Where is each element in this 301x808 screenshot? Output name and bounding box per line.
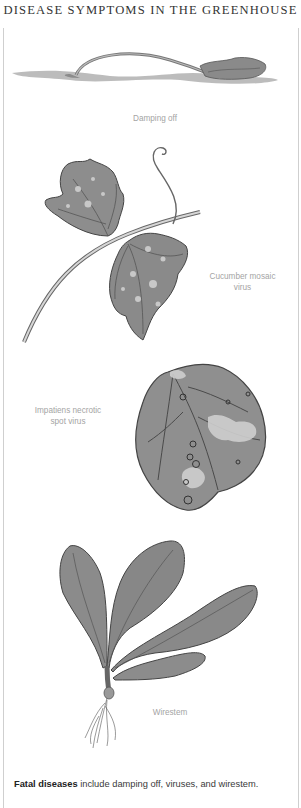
cucumber-mosaic-illustration [18, 144, 208, 344]
impatiens-necrotic-illustration [128, 362, 272, 512]
impatiens-necrotic-label-line2: spot virus [50, 417, 85, 426]
caption: Fatal diseases include damping off, viru… [14, 779, 258, 789]
page-title: DISEASE SYMPTOMS IN THE GREENHOUSE [0, 3, 301, 18]
wirestem-label: Wirestem [140, 708, 200, 719]
impatiens-necrotic-label: Impatiens necrotic spot virus [18, 406, 118, 427]
cucumber-mosaic-label-line2: virus [234, 283, 251, 292]
impatiens-necrotic-label-line1: Impatiens necrotic [35, 406, 101, 415]
caption-bold: Fatal diseases [14, 779, 78, 789]
cucumber-mosaic-label-line1: Cucumber mosaic [210, 272, 276, 281]
caption-text: include damping off, viruses, and wirest… [78, 779, 259, 789]
cucumber-mosaic-label: Cucumber mosaic virus [195, 272, 290, 293]
damping-off-label: Damping off [100, 114, 210, 125]
damping-off-illustration [10, 50, 290, 90]
